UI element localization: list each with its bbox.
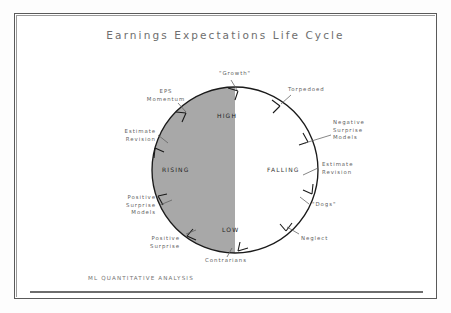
label-estimate-revision-left: Estimate Revision xyxy=(98,128,156,143)
label-contrarians: Contrarians xyxy=(190,257,262,265)
label-torpedoed: Torpedoed xyxy=(288,86,325,94)
leader-estimate-revision-right xyxy=(303,168,318,175)
leader-torpedoed xyxy=(281,95,291,104)
label-positive-surprise-models-line-1: Positive xyxy=(98,194,156,202)
label-estimate-revision-left-line-1: Estimate xyxy=(98,128,156,136)
label-high: HIGH xyxy=(217,112,237,119)
label-growth: "Growth" xyxy=(200,70,270,78)
label-eps-momentum-line-2: Momentum xyxy=(136,96,196,104)
label-estimate-revision-right-line-1: Estimate xyxy=(322,161,353,169)
label-estimate-revision-left-line-2: Revision xyxy=(98,136,156,144)
label-falling: FALLING xyxy=(267,166,300,173)
label-torpedoed-line-1: Torpedoed xyxy=(288,86,325,94)
label-negative-surprise-models: Negative Surprise Models xyxy=(333,119,365,142)
label-positive-surprise: Positive Surprise xyxy=(122,235,180,250)
footer-attribution: ML QUANTITATIVE ANALYSIS xyxy=(88,275,194,281)
life-cycle-diagram xyxy=(0,0,451,313)
label-negative-surprise-models-line-3: Models xyxy=(333,134,365,142)
label-negative-surprise-models-line-2: Surprise xyxy=(333,127,365,135)
label-dogs-line-1: "Dogs" xyxy=(312,201,336,209)
label-low: LOW xyxy=(222,226,239,233)
diagram-page: Earnings Expectations Life Cycle xyxy=(0,0,451,313)
label-positive-surprise-line-1: Positive xyxy=(122,235,180,243)
label-eps-momentum-line-1: EPS xyxy=(136,88,196,96)
label-negative-surprise-models-line-1: Negative xyxy=(333,119,365,127)
label-neglect: Neglect xyxy=(301,235,328,243)
label-estimate-revision-right: Estimate Revision xyxy=(322,161,353,176)
label-growth-line-1: "Growth" xyxy=(200,70,270,78)
label-dogs: "Dogs" xyxy=(312,201,336,209)
leader-dogs xyxy=(300,197,309,204)
label-positive-surprise-models-line-2: Surprise xyxy=(98,202,156,210)
leader-negative-surprise-models xyxy=(305,135,331,143)
footer-divider xyxy=(30,291,423,293)
label-eps-momentum: EPS Momentum xyxy=(136,88,196,103)
label-estimate-revision-right-line-2: Revision xyxy=(322,169,353,177)
label-neglect-line-1: Neglect xyxy=(301,235,328,243)
label-positive-surprise-models-line-3: Models xyxy=(98,209,156,217)
label-rising: RISING xyxy=(162,166,190,173)
label-contrarians-line-1: Contrarians xyxy=(190,257,262,265)
label-positive-surprise-line-2: Surprise xyxy=(122,243,180,251)
label-positive-surprise-models: Positive Surprise Models xyxy=(98,194,156,217)
